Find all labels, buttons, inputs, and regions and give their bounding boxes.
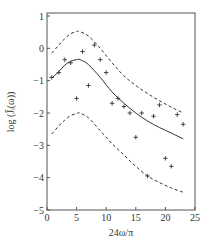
x-tick-label: 15	[131, 212, 141, 223]
x-tick-label: 5	[74, 212, 79, 223]
y-tick-label: −1	[33, 75, 44, 86]
y-axis-label: log (Ĵᵢ(ω))	[5, 92, 17, 133]
estimate-curve	[52, 59, 183, 139]
axis-ticks: 051015202510−1−2−3−4−5	[33, 11, 200, 224]
x-tick-label: 10	[101, 212, 111, 223]
upper-bound-curve	[52, 31, 183, 113]
plot-frame	[47, 13, 195, 210]
x-tick-label: 0	[45, 212, 50, 223]
y-tick-label: 0	[39, 43, 44, 54]
observation-markers	[50, 43, 186, 178]
y-tick-label: −2	[33, 108, 44, 119]
chart: 051015202510−1−2−3−4−5 24ω/π log (Ĵᵢ(ω))	[0, 0, 210, 241]
y-tick-label: −4	[33, 172, 44, 183]
x-tick-label: 20	[160, 212, 170, 223]
y-tick-label: −5	[33, 205, 44, 216]
x-axis-label: 24ω/π	[109, 227, 133, 238]
series-layer	[50, 31, 186, 192]
lower-bound-curve	[52, 113, 183, 192]
x-tick-label: 25	[190, 212, 200, 223]
y-tick-label: −3	[33, 140, 44, 151]
y-tick-label: 1	[39, 11, 44, 22]
